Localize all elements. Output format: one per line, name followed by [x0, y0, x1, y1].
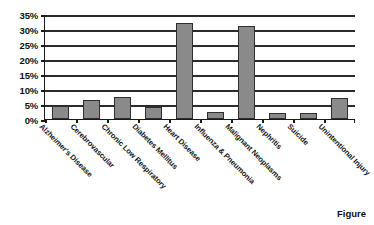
bar[interactable] [83, 100, 100, 120]
bar-slot [45, 15, 76, 119]
bar[interactable] [300, 113, 317, 119]
y-axis-tick-label: 30% [20, 25, 38, 36]
x-axis-label: Influenza & Pneumonia [193, 122, 257, 186]
bar[interactable] [145, 107, 162, 119]
bar-slot [200, 15, 231, 119]
figure-container: 35%30%25%20%15%10%5%0% Alzheimer's Disea… [0, 0, 374, 225]
bar-slot [324, 15, 355, 119]
bar-slot [231, 15, 262, 119]
x-axis-label: Unintentional Injury [317, 122, 372, 177]
x-axis-labels: Alzheimer's DiseaseCerebrovascularChroni… [44, 122, 355, 222]
y-axis-tick-label: 25% [20, 40, 38, 51]
plot-area [44, 15, 355, 120]
x-axis-label: Suicide [286, 122, 311, 147]
y-axis-tick-label: 5% [25, 100, 38, 111]
y-axis-tick-label: 0% [25, 115, 38, 126]
x-axis-label: Alzheimer's Disease [37, 122, 94, 179]
bar[interactable] [331, 98, 348, 119]
x-axis-label: Malignant Neoplasms [224, 122, 284, 182]
y-axis-tick-label: 20% [20, 55, 38, 66]
bar-series [45, 15, 355, 119]
bar[interactable] [52, 106, 69, 120]
bar[interactable] [176, 23, 193, 119]
bar-slot [293, 15, 324, 119]
bar-slot [169, 15, 200, 119]
y-axis-tick-label: 35% [20, 10, 38, 21]
y-axis: 35%30%25%20%15%10%5%0% [6, 0, 38, 225]
y-axis-tick-label: 15% [20, 70, 38, 81]
bar-slot [76, 15, 107, 119]
y-axis-tick-label: 10% [20, 85, 38, 96]
bar-slot [138, 15, 169, 119]
bar[interactable] [269, 113, 286, 119]
bar[interactable] [238, 26, 255, 119]
bar[interactable] [114, 97, 131, 120]
bar-slot [107, 15, 138, 119]
bar-slot [262, 15, 293, 119]
x-axis-label: Nephritis [255, 122, 284, 151]
bar[interactable] [207, 112, 224, 120]
figure-caption: Figure [337, 208, 366, 219]
